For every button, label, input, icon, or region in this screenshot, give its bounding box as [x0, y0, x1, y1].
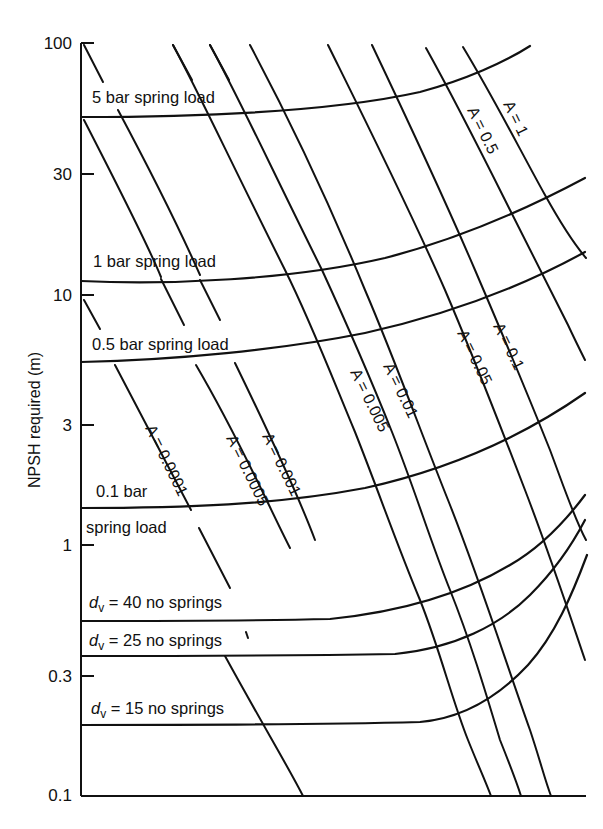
npsh-chart: 100 30 10 3 1 0.3 0.1 NPSH required (m) — [0, 0, 603, 829]
a-0-001-long — [173, 45, 491, 796]
tick-label-1: 1 — [63, 536, 72, 555]
label-0-5-bar: 0.5 bar spring load — [92, 335, 229, 353]
label-dv-25: dv = 25 no springs — [89, 631, 222, 653]
y-axis-title: NPSH required (m) — [26, 352, 43, 488]
label-a-0-0001: A = 0.0001 — [142, 422, 191, 499]
label-dv-15: dv = 15 no springs — [91, 699, 224, 721]
label-0-1-bar-line2: spring load — [86, 518, 167, 536]
a-0-0001-mid — [161, 279, 184, 325]
tick-label-30: 30 — [53, 165, 72, 184]
tick-label-0-3: 0.3 — [48, 667, 72, 686]
a-0-0001-lower — [199, 528, 230, 588]
chart-canvas: 100 30 10 3 1 0.3 0.1 NPSH required (m) — [0, 0, 603, 829]
dv-40-text: = 40 no springs — [104, 593, 222, 611]
label-a-0-01: A = 0.01 — [380, 360, 421, 421]
label-5-bar: 5 bar spring load — [92, 88, 215, 106]
a-0-0005-mid — [200, 280, 220, 320]
a-parameter-lines — [84, 45, 586, 796]
label-0-1-bar-line1: 0.1 bar — [96, 482, 148, 500]
a-0-05-long-line — [328, 45, 585, 660]
tick-label-100: 100 — [44, 34, 72, 53]
dv-25-text: = 25 no springs — [104, 631, 222, 649]
a-0-0001-tick — [246, 632, 248, 638]
dv-15-text: = 15 no springs — [106, 699, 224, 717]
label-dv-40: dv = 40 no springs — [89, 593, 222, 615]
a-0-0005-bottom — [225, 656, 303, 796]
a-line-stub-10 — [84, 300, 100, 329]
spring-load-curves — [81, 46, 587, 725]
tick-label-10: 10 — [53, 286, 72, 305]
tick-label-0-1: 0.1 — [48, 786, 72, 805]
a-line-stub-top-left — [84, 45, 103, 82]
y-tick-labels: 100 30 10 3 1 0.3 0.1 — [44, 34, 72, 805]
tick-label-3: 3 — [63, 416, 72, 435]
a-0-5-line — [426, 48, 585, 360]
a-0-01-long — [250, 45, 551, 796]
a-0-0005-upper — [118, 110, 200, 275]
label-a-0-05: A = 0.05 — [454, 327, 495, 388]
label-a-0-1: A = 0.1 — [490, 320, 527, 373]
a-0-005-long — [210, 45, 521, 796]
label-a-1: A = 1 — [500, 98, 532, 139]
curve-labels: 5 bar spring load 1 bar spring load 0.5 … — [86, 88, 229, 721]
label-1-bar: 1 bar spring load — [93, 252, 216, 270]
curve-5-bar — [81, 46, 530, 117]
